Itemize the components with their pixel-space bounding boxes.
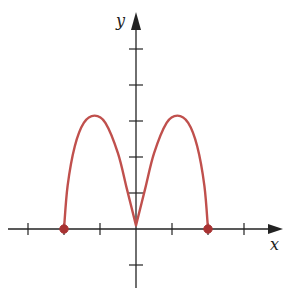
endpoint-dot <box>204 225 212 233</box>
x-axis-arrow-icon <box>268 224 283 234</box>
axes <box>8 12 283 288</box>
y-axis-arrow-icon <box>131 12 141 30</box>
function-graph: x y <box>0 0 283 293</box>
x-axis-label: x <box>270 235 279 254</box>
y-axis-label: y <box>115 11 126 30</box>
endpoint-dot <box>60 225 68 233</box>
